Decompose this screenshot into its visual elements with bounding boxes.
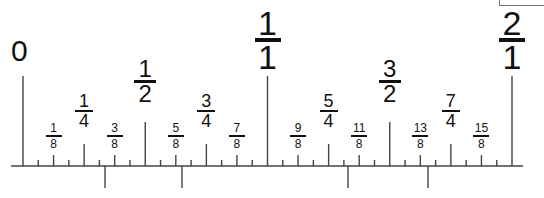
fraction-label: 12 [125,57,165,106]
fraction-label: 78 [217,122,257,150]
numerator: 1 [125,57,165,81]
fraction-label: 32 [370,57,410,106]
denominator: 1 [492,40,532,74]
fraction-label: 38 [95,122,135,150]
zero-label: 0 [11,36,28,66]
denominator: 8 [217,138,257,150]
denominator: 8 [95,138,135,150]
denominator: 1 [248,40,288,74]
numerator: 2 [492,6,532,40]
numerator: 3 [186,92,226,110]
denominator: 8 [461,138,501,150]
numerator: 15 [461,122,501,134]
numerator: 7 [431,92,471,110]
fraction-label: 21 [492,6,532,74]
denominator: 2 [370,82,410,106]
denominator: 8 [400,138,440,150]
numerator: 1 [248,6,288,40]
denominator: 8 [34,138,74,150]
denominator: 2 [125,82,165,106]
numerator: 1 [64,92,104,110]
denominator: 8 [278,138,318,150]
numerator: 7 [217,122,257,134]
denominator: 8 [156,138,196,150]
fraction-label: 118 [339,122,379,150]
denominator: 8 [339,138,379,150]
fraction-label: 11 [248,6,288,74]
numerator: 5 [309,92,349,110]
numerator: 3 [370,57,410,81]
numerator: 11 [339,122,379,134]
fraction-label: 158 [461,122,501,150]
numerator: 3 [95,122,135,134]
